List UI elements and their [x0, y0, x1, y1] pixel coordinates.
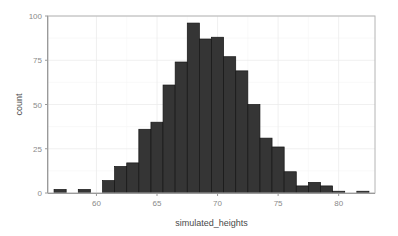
histogram-plot: 0255075100 6065707580 simulated_heights …	[0, 0, 398, 236]
x-tick-label: 70	[213, 199, 222, 208]
histogram-bar	[321, 186, 333, 193]
histogram-bar	[224, 57, 236, 193]
histogram-bar	[115, 166, 127, 193]
histogram-bar	[187, 23, 199, 193]
x-tick-label: 65	[153, 199, 162, 208]
histogram-bar	[175, 62, 187, 193]
histogram-bar	[163, 85, 175, 193]
histogram-figure: 0255075100 6065707580 simulated_heights …	[0, 0, 398, 236]
x-tick-label: 80	[334, 199, 343, 208]
histogram-bar	[284, 172, 296, 193]
y-tick-label: 25	[33, 145, 42, 154]
y-tick-label: 100	[29, 12, 43, 21]
histogram-bar	[139, 129, 151, 193]
histogram-bar	[248, 105, 260, 194]
histogram-bar	[103, 181, 115, 193]
histogram-bar	[212, 37, 224, 193]
histogram-bar	[199, 39, 211, 193]
y-tick-label: 75	[33, 56, 42, 65]
histogram-bar	[260, 138, 272, 193]
histogram-bar	[54, 189, 66, 193]
histogram-bar	[272, 147, 284, 193]
y-tick-label: 0	[38, 189, 43, 198]
histogram-bar	[296, 186, 308, 193]
histogram-bar	[127, 163, 139, 193]
y-axis-title: count	[14, 93, 24, 116]
histogram-bar	[151, 122, 163, 193]
histogram-bar	[308, 182, 320, 193]
x-axis-title: simulated_heights	[175, 218, 248, 228]
x-tick-label: 75	[274, 199, 283, 208]
x-tick-label: 60	[92, 199, 101, 208]
histogram-bar	[78, 189, 90, 193]
y-tick-label: 50	[33, 101, 42, 110]
histogram-bar	[236, 71, 248, 193]
